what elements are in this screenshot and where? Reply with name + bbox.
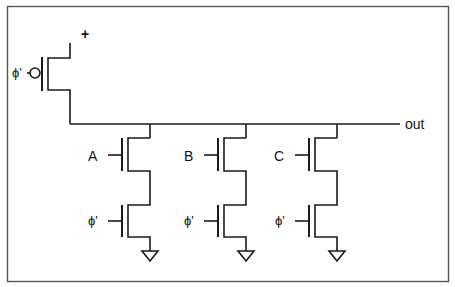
diagram-frame	[8, 7, 449, 282]
input-b-label: B	[184, 149, 193, 163]
supply-label: +	[81, 27, 89, 41]
branch-a	[108, 124, 158, 261]
pmos-precharge-transistor	[27, 43, 70, 124]
inversion-bubble-icon	[30, 68, 40, 78]
clock-a-label: ϕ'	[88, 214, 98, 227]
circuit-schematic	[0, 0, 455, 287]
ground-icon	[238, 251, 254, 261]
clock-b-label: ϕ'	[184, 214, 194, 227]
ground-icon	[142, 251, 158, 261]
input-a-label: A	[88, 149, 97, 163]
clock-c-label: ϕ'	[275, 214, 285, 227]
ground-icon	[329, 251, 345, 261]
output-label: out	[405, 117, 424, 131]
branch-c	[295, 124, 345, 261]
precharge-gate-label: ϕ'	[12, 66, 22, 79]
input-c-label: C	[274, 149, 284, 163]
branch-b	[204, 124, 254, 261]
